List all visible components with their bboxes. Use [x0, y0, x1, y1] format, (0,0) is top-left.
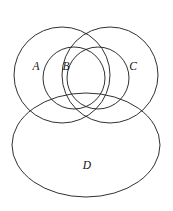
- venn-diagram-figure: A B C D: [0, 0, 173, 211]
- venn-diagram-canvas: A B C D: [0, 0, 173, 211]
- set-label-a: A: [31, 60, 40, 72]
- set-label-d: D: [82, 159, 92, 171]
- set-label-c: C: [129, 60, 137, 72]
- set-label-b: B: [62, 60, 69, 72]
